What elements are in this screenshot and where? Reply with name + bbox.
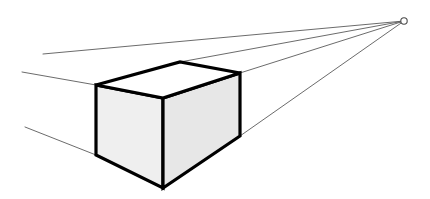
box-shape xyxy=(96,62,240,188)
perspective-canvas xyxy=(0,0,430,199)
construction-line-lower-guide-to-bottom-left xyxy=(25,127,96,155)
construction-line-upper-guide-to-vp xyxy=(43,21,404,54)
box-face-left xyxy=(96,85,163,188)
construction-line-middle-guide-to-top-left xyxy=(22,72,96,85)
construction-line-top-back-edge-to-vp xyxy=(180,21,404,62)
vanishing-point-marker xyxy=(401,18,407,24)
construction-line-bottom-right-to-vp xyxy=(240,21,404,136)
perspective-diagram: One-Point Perspective Cube A rectangular… xyxy=(0,0,430,199)
